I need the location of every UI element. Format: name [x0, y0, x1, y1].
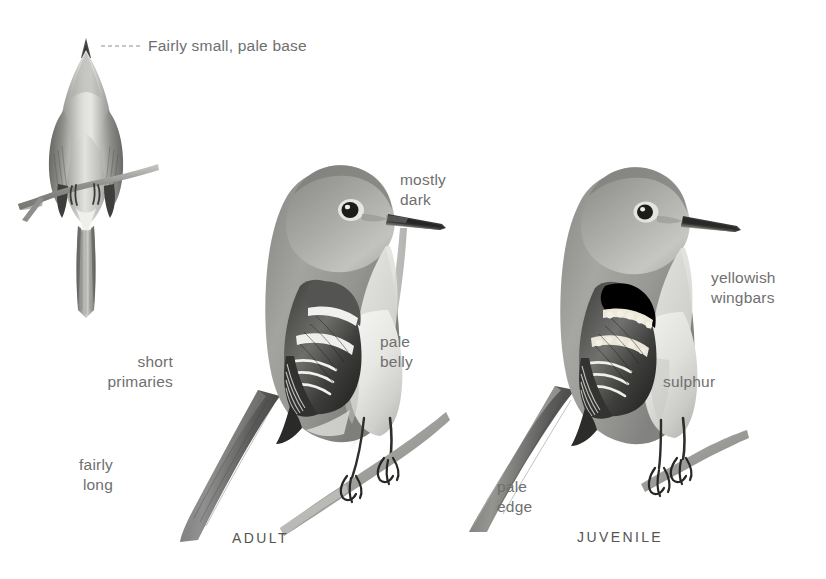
label-pale-belly: pale belly	[380, 332, 413, 372]
label-bill-callout: Fairly small, pale base	[148, 36, 307, 56]
juvenile-leg-front	[683, 418, 685, 460]
adult-eye	[342, 202, 359, 218]
adult-tail	[180, 390, 280, 542]
label-sulphur: sulphur	[663, 372, 715, 392]
caption-adult: ADULT	[232, 530, 289, 546]
label-short-primaries: short primaries	[23, 352, 173, 392]
label-mostly-dark: mostly dark	[400, 170, 446, 210]
label-pale-edge: pale edge	[497, 477, 532, 517]
field-guide-plate: Fairly small, pale base mostly dark pale…	[0, 0, 826, 579]
label-yellowish-wingbars: yellowish wingbars	[711, 268, 776, 308]
caption-juvenile: JUVENILE	[577, 529, 663, 545]
juvenile-eye	[637, 204, 653, 219]
label-fairly-long: fairly long	[13, 455, 113, 495]
rear-primary-tip-right	[104, 184, 115, 218]
